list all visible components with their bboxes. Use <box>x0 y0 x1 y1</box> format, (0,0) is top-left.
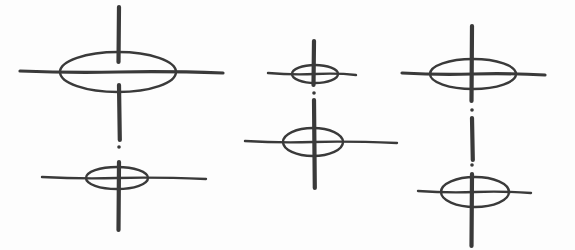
axis-dot-right-1 <box>470 163 474 167</box>
axis-dot-left-0 <box>117 145 121 149</box>
vertical-axis-middle-0 <box>314 41 315 85</box>
vertical-axis-middle-1 <box>314 100 315 188</box>
vertical-axis-left-0 <box>119 7 120 62</box>
axis-dot-middle-0 <box>312 91 316 95</box>
vertical-axis-left-1 <box>119 85 120 140</box>
cross-ellipse-sketch <box>0 0 575 250</box>
vertical-axis-right-2 <box>472 174 473 246</box>
horizontal-line-left-1 <box>42 177 206 179</box>
horizontal-line-right-1 <box>418 191 531 193</box>
diagram-canvas <box>0 0 575 250</box>
vertical-axis-left-2 <box>119 162 120 230</box>
vertical-axis-right-0 <box>472 26 473 101</box>
vertical-axis-right-1 <box>472 118 473 160</box>
axis-dot-right-0 <box>470 108 474 112</box>
horizontal-line-middle-1 <box>245 141 397 143</box>
horizontal-line-left-0 <box>20 71 223 73</box>
